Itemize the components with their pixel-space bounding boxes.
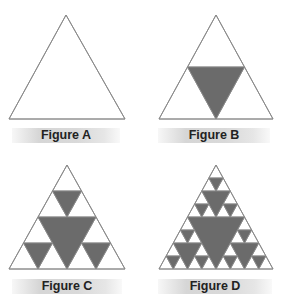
figure-d-white-triangle [209,165,223,178]
figure-b-label: Figure B [158,128,270,143]
figure-c-label: Figure C [12,279,122,294]
figure-d-label: Figure D [158,279,272,294]
figure-b-white-triangle [188,15,245,67]
figures-canvas [0,0,292,302]
figure-c-white-triangle [53,165,82,191]
figure-a-white-triangle [9,15,125,119]
figure-a-label: Figure A [12,128,120,143]
